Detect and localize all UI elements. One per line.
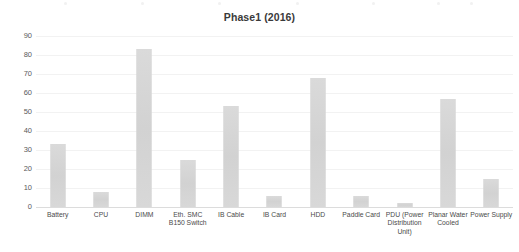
bar-slot (470, 36, 513, 207)
x-axis-line (36, 207, 513, 208)
y-axis-tick-20: 20 (24, 165, 32, 173)
bars-layer (36, 36, 513, 207)
bar-slot (253, 36, 296, 207)
bar-slot (79, 36, 122, 207)
y-axis-tick-70: 70 (24, 70, 32, 78)
y-axis-tick-10: 10 (24, 184, 32, 192)
y-axis: 9080706050403020100 (8, 30, 34, 213)
bar[interactable] (484, 179, 499, 208)
bar-slot (296, 36, 339, 207)
y-axis-tick-30: 30 (24, 146, 32, 154)
y-axis-tick-40: 40 (24, 127, 32, 135)
bar[interactable] (310, 78, 325, 207)
x-axis-label: Power Supply (466, 211, 517, 219)
bar[interactable] (354, 196, 369, 207)
bar-slot (123, 36, 166, 207)
bar[interactable] (397, 203, 412, 207)
y-axis-tick-80: 80 (24, 51, 32, 59)
bar-slot (383, 36, 426, 207)
top-artifact-strip (0, 0, 519, 8)
y-axis-tick-60: 60 (24, 89, 32, 97)
y-axis-tick-90: 90 (24, 32, 32, 40)
bar-slot (166, 36, 209, 207)
bar[interactable] (440, 99, 455, 207)
bar-slot (426, 36, 469, 207)
bar[interactable] (224, 106, 239, 207)
bar[interactable] (137, 49, 152, 207)
bar[interactable] (267, 196, 282, 207)
bar-slot (340, 36, 383, 207)
bar[interactable] (180, 160, 195, 208)
bar-chart: Phase1 (2016) 9080706050403020100 Batter… (0, 0, 519, 252)
chart-title: Phase1 (2016) (0, 11, 519, 23)
y-axis-tick-0: 0 (28, 203, 32, 211)
x-axis-labels: BatteryCPUDIMMEth. SMC B150 SwitchIB Cab… (36, 211, 513, 252)
bar-slot (36, 36, 79, 207)
y-axis-tick-50: 50 (24, 108, 32, 116)
bar[interactable] (94, 192, 109, 207)
bar-slot (209, 36, 252, 207)
bar[interactable] (50, 144, 65, 207)
